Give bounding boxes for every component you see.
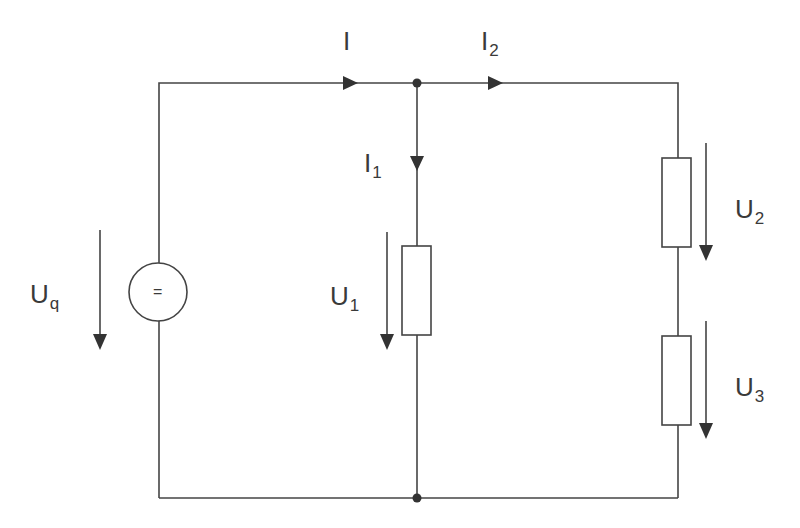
circuit-schematic (0, 0, 800, 528)
voltage-label-u3-sub: 3 (755, 387, 764, 406)
current-label-i: I (343, 28, 351, 54)
current-label-i-main: I (343, 26, 350, 56)
current-label-i1-main: I (364, 148, 371, 178)
junction-top (413, 79, 422, 88)
voltage-label-u2-sub: 2 (755, 209, 764, 228)
voltage-arrowhead-u1-icon (380, 334, 394, 350)
current-label-i2-main: I (481, 26, 488, 56)
voltage-label-u1-main: U (330, 281, 349, 311)
voltage-label-u3: U3 (735, 374, 764, 400)
resistor-r1 (402, 246, 431, 335)
voltage-label-u1-sub: 1 (350, 296, 359, 315)
voltage-label-u2-main: U (735, 194, 754, 224)
voltage-label-uq: Uq (30, 281, 59, 307)
current-arrow-i2-icon (488, 76, 503, 90)
voltage-arrowhead-u2-icon (699, 245, 713, 261)
wire-left-top (159, 83, 678, 263)
junction-bottom (413, 494, 422, 503)
voltage-label-u1: U1 (330, 283, 359, 309)
current-label-i2: I2 (481, 28, 499, 54)
voltage-arrowhead-uq-icon (93, 334, 107, 350)
voltage-label-uq-sub: q (50, 294, 59, 313)
current-arrow-i-icon (343, 76, 358, 90)
current-arrow-i1-icon (410, 156, 424, 171)
dc-source-symbol: = (153, 284, 162, 300)
current-label-i1: I1 (364, 150, 382, 176)
voltage-label-uq-main: U (30, 279, 49, 309)
resistor-r3 (662, 336, 691, 425)
current-label-i2-sub: 2 (489, 41, 498, 60)
voltage-label-u3-main: U (735, 372, 754, 402)
voltage-arrowhead-u3-icon (699, 423, 713, 439)
voltage-label-u2: U2 (735, 196, 764, 222)
resistor-r2 (662, 158, 691, 247)
current-label-i1-sub: 1 (372, 163, 381, 182)
